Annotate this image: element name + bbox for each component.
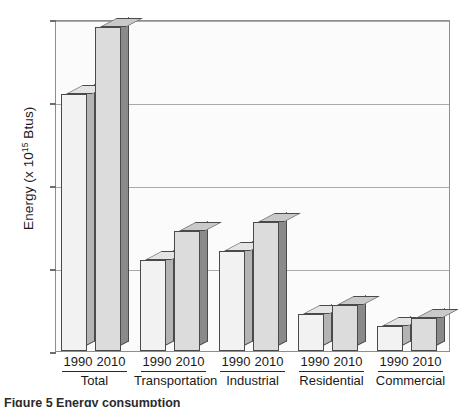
y-axis-title-suffix: Btus) xyxy=(21,107,36,143)
x-axis-year-label: 2010 xyxy=(334,354,363,369)
x-axis-group-rule xyxy=(299,371,364,372)
bar-commercial-1990 xyxy=(377,326,403,351)
bar-front-face xyxy=(174,231,200,351)
bar-side-face xyxy=(120,18,129,346)
x-axis-year-labels: 19902010 xyxy=(55,354,134,369)
bar-industrial-1990 xyxy=(219,251,245,351)
x-axis-group-rule xyxy=(220,371,285,372)
bar-front-face xyxy=(219,251,245,351)
x-axis-year-label: 1990 xyxy=(143,354,172,369)
x-axis-group-label: Industrial xyxy=(213,373,292,389)
bar-front-face xyxy=(95,27,121,351)
bar-side-face xyxy=(199,221,208,346)
x-axis-year-label: 2010 xyxy=(176,354,205,369)
x-axis-year-label: 1990 xyxy=(222,354,251,369)
x-axis-group-total: 19902010Total xyxy=(55,354,134,389)
bar-front-face xyxy=(377,326,403,351)
bar-commercial-2010 xyxy=(411,318,437,351)
bar-total-1990 xyxy=(61,94,87,351)
x-axis-group-label: Total xyxy=(55,373,134,389)
bar-front-face xyxy=(253,222,279,351)
x-axis-year-label: 1990 xyxy=(380,354,409,369)
y-axis-title-exponent: 15 xyxy=(20,142,30,152)
y-axis-tick-mark xyxy=(50,186,56,187)
bar-side-face xyxy=(86,84,95,346)
x-axis-year-labels: 19902010 xyxy=(292,354,371,369)
x-axis-group-label: Residential xyxy=(292,373,371,389)
y-axis-tick-mark xyxy=(50,20,56,21)
x-axis-group-transportation: 19902010Transportation xyxy=(134,354,213,389)
x-axis-year-labels: 19902010 xyxy=(213,354,292,369)
bar-front-face xyxy=(140,260,166,351)
x-axis-year-label: 1990 xyxy=(64,354,93,369)
x-axis-group-label: Transportation xyxy=(134,373,213,389)
bar-front-face xyxy=(332,305,358,351)
figure-caption: Figure 5 Energy consumption xyxy=(4,396,304,407)
bar-industrial-2010 xyxy=(253,222,279,351)
x-axis-year-labels: 19902010 xyxy=(134,354,213,369)
x-axis-year-label: 2010 xyxy=(255,354,284,369)
bar-side-face xyxy=(278,213,287,346)
bar-top-face xyxy=(416,309,458,318)
x-axis-year-label: 2010 xyxy=(413,354,442,369)
x-axis-group-rule xyxy=(141,371,206,372)
x-axis-group-industrial: 19902010Industrial xyxy=(213,354,292,389)
bar-transportation-2010 xyxy=(174,231,200,351)
bar-total-2010 xyxy=(95,27,121,351)
bar-top-face xyxy=(258,213,301,222)
x-axis-group-rule xyxy=(62,371,127,372)
bar-front-face xyxy=(411,318,437,351)
bar-side-face xyxy=(244,242,253,346)
x-axis-year-label: 2010 xyxy=(97,354,126,369)
bar-front-face xyxy=(298,314,324,351)
x-axis-group-commercial: 19902010Commercial xyxy=(371,354,450,389)
x-axis-year-label: 1990 xyxy=(301,354,330,369)
bar-top-face xyxy=(337,296,380,305)
bar-transportation-1990 xyxy=(140,260,166,351)
bar-residential-2010 xyxy=(332,305,358,351)
x-axis-year-labels: 19902010 xyxy=(371,354,450,369)
y-axis-tick-mark xyxy=(50,269,56,270)
y-axis-title: Energy (x 1015 Btus) xyxy=(20,48,37,288)
y-axis-title-prefix: Energy (x 10 xyxy=(21,152,36,230)
y-axis-tick-mark xyxy=(50,103,56,104)
plot-area: 020406080 xyxy=(55,20,450,352)
bar-residential-1990 xyxy=(298,314,324,351)
bar-front-face xyxy=(61,94,87,351)
x-axis-group-label: Commercial xyxy=(371,373,450,389)
x-axis-group-rule xyxy=(378,371,443,372)
bar-side-face xyxy=(165,250,174,346)
x-axis-group-residential: 19902010Residential xyxy=(292,354,371,389)
bar-top-face xyxy=(179,222,222,231)
